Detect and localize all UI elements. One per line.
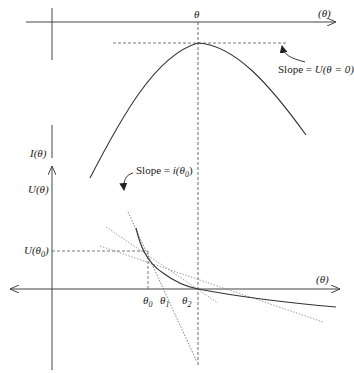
- slope-annotation-arrow-top: [282, 46, 305, 62]
- slope-annotation-bottom: Slope = i(θ0): [136, 164, 193, 179]
- tangent-at-theta1: [106, 227, 218, 303]
- top-x-axis-label: (θ): [318, 7, 331, 20]
- slope-annotation-top: Slope = U(θ = 0): [278, 63, 354, 76]
- slope-annotation-arrow-bottom: [124, 173, 133, 190]
- tick-theta1: θ1: [160, 294, 169, 309]
- top-panel: θ (θ) I(θ) Slope = U(θ = 0): [26, 7, 354, 178]
- peak-theta-label: θ: [194, 8, 200, 20]
- tangent-secant-1: [100, 246, 323, 322]
- bottom-x-axis-label: (θ): [316, 273, 329, 286]
- u-theta0-label: U(θ0): [24, 244, 49, 259]
- tick-theta2: θ2: [182, 294, 191, 309]
- tangent-at-theta0: [128, 212, 197, 362]
- score-function-diagram: θ (θ) I(θ) Slope = U(θ = 0) Slope = i(θ0…: [0, 0, 354, 373]
- bottom-y-axis-label: U(θ): [28, 183, 49, 196]
- top-y-axis-label: I(θ): [29, 147, 47, 160]
- tick-theta0: θ0: [143, 294, 152, 309]
- bottom-panel: Slope = i(θ0) U(θ) U(θ0) (θ) θ0 θ1 θ2: [10, 164, 340, 370]
